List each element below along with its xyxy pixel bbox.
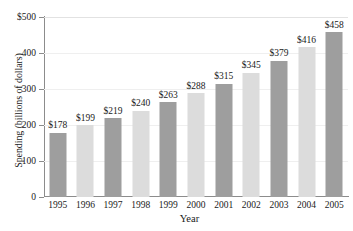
y-tick-mark	[39, 125, 44, 126]
bar	[77, 125, 94, 197]
y-tick-label: 200	[0, 120, 36, 130]
bar-group: $263	[155, 17, 183, 197]
bar-value-label: $416	[297, 36, 316, 46]
bar-group: $199	[72, 17, 100, 197]
bar-group: $458	[320, 17, 348, 197]
bar-value-label: $288	[186, 82, 205, 92]
y-tick-label: $500	[0, 12, 36, 22]
bar	[298, 47, 315, 197]
y-tick-mark	[39, 161, 44, 162]
bar	[49, 133, 66, 197]
plot-area: $178$199$219$240$263$288$315$345$379$416…	[44, 17, 348, 197]
bar-value-label: $315	[214, 72, 233, 82]
bar-value-label: $178	[48, 121, 67, 131]
y-tick-mark	[39, 17, 44, 18]
bar	[270, 61, 287, 197]
x-tick-label: 2000	[187, 200, 206, 210]
x-tick-label: 1999	[159, 200, 178, 210]
x-tick-label: 1998	[131, 200, 150, 210]
x-tick-label: 1996	[76, 200, 95, 210]
bar-value-label: $219	[104, 107, 123, 117]
bar	[132, 111, 149, 197]
bar-chart: Spending (billions of dollars) $178$199$…	[0, 0, 353, 231]
bar-value-label: $458	[325, 21, 344, 31]
y-tick-mark	[39, 89, 44, 90]
bar-group: $416	[293, 17, 321, 197]
y-tick-label: 300	[0, 84, 36, 94]
bar-value-label: $199	[76, 114, 95, 124]
bar-group: $240	[127, 17, 155, 197]
bar-value-label: $345	[242, 61, 261, 71]
bar-group: $379	[265, 17, 293, 197]
x-tick-label: 2003	[269, 200, 288, 210]
y-tick-mark	[39, 197, 44, 198]
bar-group: $288	[182, 17, 210, 197]
x-tick-label: 2002	[242, 200, 261, 210]
bar	[105, 118, 122, 197]
x-tick-label: 2004	[297, 200, 316, 210]
x-tick-label: 2001	[214, 200, 233, 210]
bar-group: $315	[210, 17, 238, 197]
bar	[215, 84, 232, 197]
y-tick-label: 400	[0, 48, 36, 58]
x-tick-label: 1997	[104, 200, 123, 210]
y-tick-label: 100	[0, 156, 36, 166]
x-tick-label: 1995	[48, 200, 67, 210]
y-tick-label: 0	[0, 192, 36, 202]
bar	[243, 73, 260, 197]
bar-group: $345	[237, 17, 265, 197]
y-tick-mark	[39, 53, 44, 54]
x-axis-title-label: Year	[180, 213, 199, 224]
bar-value-label: $240	[131, 99, 150, 109]
bar	[187, 93, 204, 197]
x-tick-label: 2005	[325, 200, 344, 210]
x-axis-title: Year	[0, 213, 353, 224]
bar	[326, 32, 343, 197]
bar	[160, 102, 177, 197]
bar-group: $219	[99, 17, 127, 197]
bar-value-label: $379	[269, 49, 288, 59]
bar-value-label: $263	[159, 91, 178, 101]
bar-group: $178	[44, 17, 72, 197]
bars-layer: $178$199$219$240$263$288$315$345$379$416…	[44, 17, 348, 197]
